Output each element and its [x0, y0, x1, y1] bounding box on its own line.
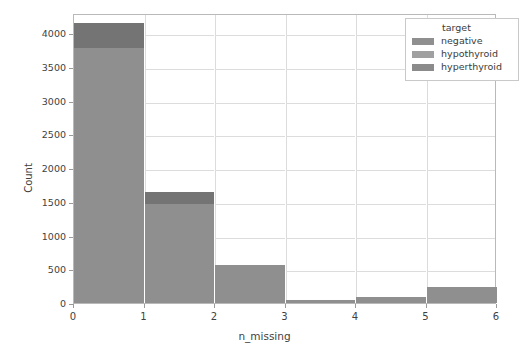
x-tick-mark [496, 304, 497, 308]
bar-segment-negative [286, 300, 357, 303]
histogram-bar [215, 13, 286, 303]
figure-canvas: Count 05001000150020002500300035004000 0… [0, 0, 529, 355]
x-tick-label: 4 [335, 312, 375, 322]
x-tick-label: 3 [265, 312, 305, 322]
y-tick-label: 4000 [6, 29, 66, 39]
x-tick-mark [144, 304, 145, 308]
bar-segment-hypothyroid [74, 23, 145, 48]
x-tick-mark [426, 304, 427, 308]
x-axis-label: n_missing [0, 330, 529, 342]
legend-swatch-icon [412, 51, 434, 58]
y-tick-label: 1000 [6, 232, 66, 242]
bar-segment-negative [215, 265, 286, 303]
legend-items: negativehypothyroidhyperthyroid [412, 36, 512, 72]
histogram-bar [74, 13, 145, 303]
x-tick-mark [355, 304, 356, 308]
bar-segment-negative [427, 287, 498, 303]
legend-item-label: negative [441, 36, 483, 46]
y-tick-label: 500 [6, 265, 66, 275]
legend: target negativehypothyroidhyperthyroid [405, 18, 519, 81]
y-tick-label: 1500 [6, 198, 66, 208]
x-tick-label: 0 [53, 312, 93, 322]
x-tick-label: 1 [124, 312, 164, 322]
bar-segment-negative [74, 48, 145, 303]
y-tick-label: 2000 [6, 164, 66, 174]
histogram-bar [286, 13, 357, 303]
legend-swatch-icon [412, 64, 434, 71]
x-tick-label: 6 [476, 312, 516, 322]
legend-swatch-icon [412, 38, 434, 45]
y-tick-label: 2500 [6, 130, 66, 140]
bar-segment-negative [356, 297, 427, 303]
x-tick-mark [214, 304, 215, 308]
x-tick-label: 2 [194, 312, 234, 322]
x-tick-label: 5 [406, 312, 446, 322]
x-tick-mark [285, 304, 286, 308]
bar-segment-negative [145, 204, 216, 303]
legend-item: negative [412, 36, 512, 46]
y-tick-label: 0 [6, 299, 66, 309]
legend-item: hypothyroid [412, 49, 512, 59]
legend-item-label: hypothyroid [441, 49, 498, 59]
legend-title: target [412, 23, 512, 33]
x-tick-mark [73, 304, 74, 308]
legend-item: hyperthyroid [412, 62, 512, 72]
bar-segment-hypothyroid [145, 192, 216, 203]
legend-item-label: hyperthyroid [441, 62, 502, 72]
y-tick-label: 3000 [6, 97, 66, 107]
y-tick-label: 3500 [6, 63, 66, 73]
histogram-bar [145, 13, 216, 303]
